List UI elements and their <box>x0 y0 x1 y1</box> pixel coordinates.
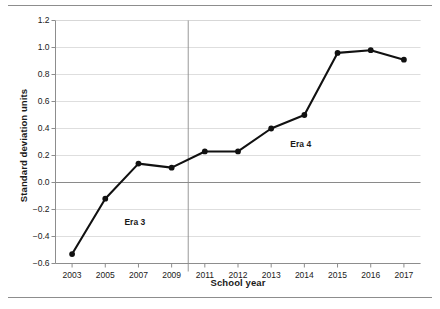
data-point-marker <box>102 196 108 202</box>
data-point-marker <box>301 112 307 118</box>
chart-figure: Standard deviation units School year 1.2… <box>0 0 440 309</box>
axes-group <box>56 21 421 264</box>
x-tick-label: 2017 <box>384 270 424 280</box>
series-markers-group <box>69 47 407 257</box>
data-point-marker <box>202 149 208 155</box>
reference-lines-group <box>56 21 421 272</box>
y-tick-label: 1.0 <box>16 42 50 52</box>
data-point-marker <box>368 47 374 53</box>
data-point-marker <box>169 165 175 171</box>
y-tick-label: −0.4 <box>16 231 50 241</box>
y-tick-label: 0.2 <box>16 150 50 160</box>
y-tick-label: −0.2 <box>16 204 50 214</box>
x-tick-marks-group <box>72 264 404 268</box>
era-annotation-label: Era 3 <box>124 217 145 227</box>
y-tick-label: −0.6 <box>16 258 50 268</box>
data-point-marker <box>235 149 241 155</box>
y-tick-label: 0.4 <box>16 123 50 133</box>
y-tick-label: 0.0 <box>16 177 50 187</box>
data-point-marker <box>136 161 142 167</box>
y-tick-label: 0.6 <box>16 96 50 106</box>
data-point-marker <box>401 57 407 63</box>
data-point-marker <box>268 126 274 132</box>
gridlines-group <box>56 21 421 264</box>
y-tick-label: 1.2 <box>16 15 50 25</box>
y-tick-marks-group <box>52 21 56 264</box>
era-annotation-label: Era 4 <box>290 139 311 149</box>
line-chart-plot <box>0 0 440 309</box>
y-tick-label: 0.8 <box>16 69 50 79</box>
data-point-marker <box>69 251 75 257</box>
data-point-marker <box>335 50 341 56</box>
